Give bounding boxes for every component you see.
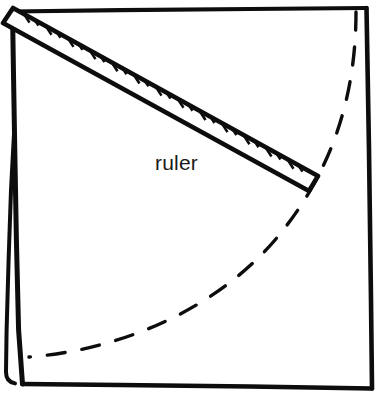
page-left-edge-inner [13,12,23,385]
page-left-spine-fold [6,130,15,383]
ruler-diagram-svg: ruler [0,0,385,405]
page-right-edge [367,8,373,389]
page-top-edge [13,8,367,12]
figure-root: ruler [0,0,385,405]
page-sheet [6,8,372,389]
page-bottom-edge [23,384,373,389]
ruler-label: ruler [155,151,198,174]
